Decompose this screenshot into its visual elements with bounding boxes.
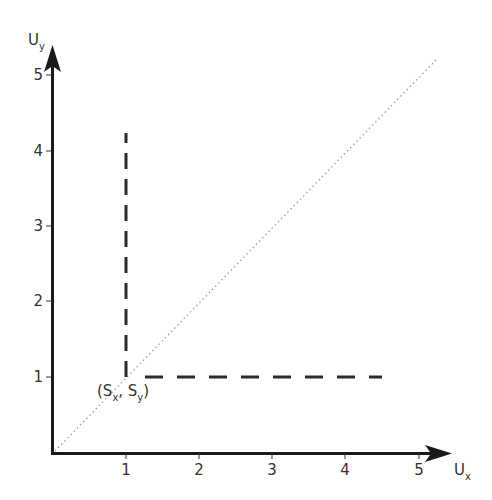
x-tick-4: 4 xyxy=(340,463,350,478)
point-label-open: (S xyxy=(97,382,112,400)
x-axis-label-main: U xyxy=(454,461,465,479)
y-axis-label-sub: y xyxy=(39,41,45,52)
y-tick-3: 3 xyxy=(33,219,43,234)
diagram-canvas xyxy=(0,0,492,500)
y-axis-label: Uy xyxy=(28,33,45,48)
x-tick-1: 1 xyxy=(121,463,131,478)
x-tick-3: 3 xyxy=(267,463,277,478)
x-axis-label: Ux xyxy=(454,463,471,478)
point-label-sub-x: x xyxy=(112,392,118,403)
x-tick-2: 2 xyxy=(194,463,204,478)
y-tick-5: 5 xyxy=(33,68,43,83)
point-label-comma: , S xyxy=(118,382,137,400)
x-tick-5: 5 xyxy=(414,463,424,478)
point-label-close: ) xyxy=(143,382,149,400)
point-label: (Sx, Sy) xyxy=(97,384,149,399)
y-axis-label-main: U xyxy=(28,31,39,49)
x-axis-label-sub: x xyxy=(465,471,471,482)
point-label-sub-y: y xyxy=(137,392,143,403)
y-tick-2: 2 xyxy=(33,294,43,309)
y-tick-1: 1 xyxy=(33,370,43,385)
y-tick-4: 4 xyxy=(33,144,43,159)
